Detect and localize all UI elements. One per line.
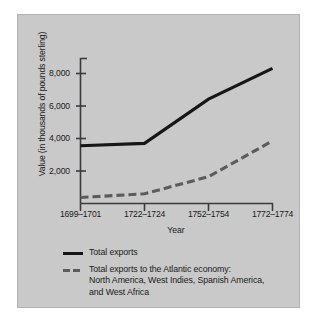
y-tick-label-4000: 4,000 — [30, 134, 70, 143]
legend-label-total-exports: Total exports — [89, 247, 138, 258]
legend-item-total-exports: Total exports — [63, 247, 299, 258]
x-axis-title: Year — [80, 225, 272, 235]
series-total-exports-line — [81, 68, 273, 146]
chart-plot-area: Value (in thousands of pounds sterling) … — [18, 15, 301, 309]
legend-label-atlantic-line3: and West Africa — [89, 287, 149, 297]
y-tick-label-6000: 6,000 — [30, 102, 70, 111]
chart-legend: Total exports Total exports to the Atlan… — [63, 247, 299, 304]
legend-label-atlantic-exports: Total exports to the Atlantic economy: N… — [89, 264, 264, 298]
x-tick-label-1772-1774: 1772–1774 — [242, 209, 304, 219]
legend-label-atlantic-line2: North America, West Indies, Spanish Amer… — [89, 275, 264, 285]
legend-solid-line-icon — [63, 249, 83, 258]
y-tick-label-2000: 2,000 — [30, 167, 70, 176]
legend-dashed-line-icon — [63, 266, 83, 275]
y-tick-label-8000: 8,000 — [30, 69, 70, 78]
legend-label-atlantic-line1: Total exports to the Atlantic economy: — [89, 264, 231, 274]
x-tick-label-1752-1754: 1752–1754 — [178, 209, 240, 219]
x-tick-label-1722-1724: 1722–1724 — [114, 209, 176, 219]
legend-item-atlantic-exports: Total exports to the Atlantic economy: N… — [63, 264, 299, 298]
series-atlantic-exports-line — [81, 141, 273, 198]
chart-figure-frame: Value (in thousands of pounds sterling) … — [17, 14, 300, 308]
x-tick-label-1699-1701: 1699–1701 — [50, 209, 112, 219]
